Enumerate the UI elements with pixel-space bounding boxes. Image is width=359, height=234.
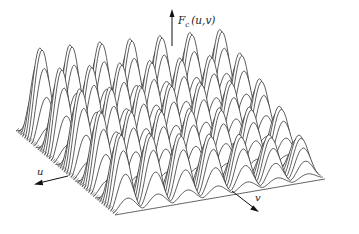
- surface-plot: Fc(u,v) u v: [0, 0, 359, 234]
- v-axis-label: v: [255, 192, 261, 203]
- u-axis: [39, 176, 68, 183]
- z-axis-label: Fc(u,v): [177, 14, 215, 29]
- z-axis-arrowhead: [170, 9, 175, 17]
- u-axis-label: u: [37, 166, 43, 177]
- surface-wireframe: [16, 29, 325, 217]
- surface-plot-figure: Fc(u,v) u v: [0, 0, 359, 234]
- u-axis-arrowhead: [34, 180, 43, 185]
